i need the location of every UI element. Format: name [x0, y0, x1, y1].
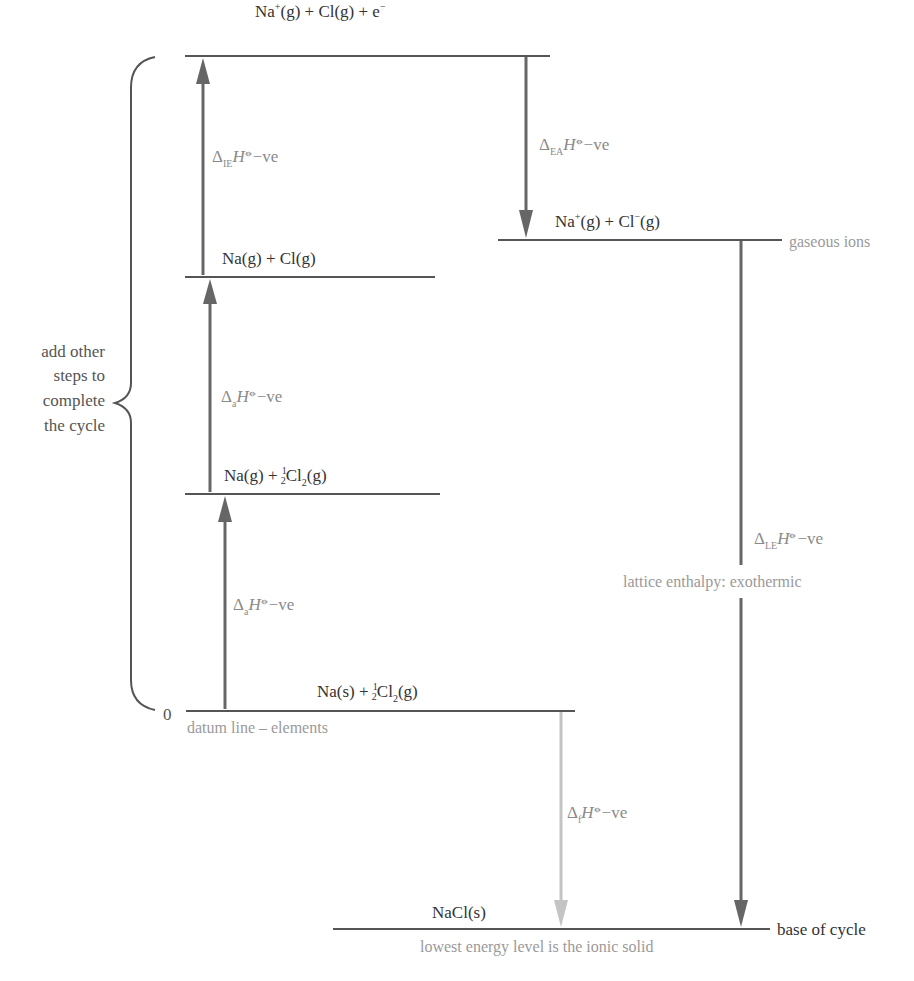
- label-top-level: Na+(g) + Cl(g) + e−: [255, 1, 386, 21]
- arrow-formation: [554, 712, 568, 927]
- label-atomisation-na-enthalpy: ΔaH⦵−ve: [233, 595, 294, 617]
- label-lattice-enthalpy: ΔLEH⦵−ve: [754, 529, 823, 551]
- zero-marker: 0: [163, 705, 172, 724]
- born-haber-diagram: Na+(g) + Cl(g) + e− Na(g) + Cl(g) Na(g) …: [0, 0, 914, 981]
- note-lowest-energy: lowest energy level is the ionic solid: [420, 938, 653, 956]
- note-datum-line: datum line – elements: [187, 719, 328, 736]
- label-gaseous-atoms: Na(g) + Cl(g): [222, 249, 316, 268]
- brace-note-line-3: complete: [43, 391, 105, 410]
- label-gaseous-ions: Na+(g) + Cl−(g): [555, 211, 660, 231]
- arrow-atomisation-na: [218, 496, 232, 709]
- note-lattice-exothermic: lattice enthalpy: exothermic: [623, 573, 802, 591]
- arrow-electron-affinity: [519, 57, 533, 238]
- note-base-of-cycle: base of cycle: [777, 920, 866, 939]
- label-atomisation-cl-enthalpy: ΔaH⦵−ve: [221, 387, 282, 409]
- arrow-ionisation: [196, 58, 210, 275]
- label-electron-affinity-enthalpy: ΔEAH⦵−ve: [539, 135, 609, 157]
- brace-note-line-2: steps to: [54, 366, 105, 385]
- label-ionic-solid: NaCl(s): [432, 903, 486, 922]
- label-formation-enthalpy: ΔfH⦵−ve: [567, 803, 627, 825]
- brace-note-line-1: add other: [41, 342, 105, 361]
- label-atomised-na: Na(g) + 12Cl2(g): [224, 465, 327, 488]
- label-ionisation-enthalpy: ΔIEH⦵−ve: [212, 147, 278, 169]
- cycle-brace: [115, 57, 155, 710]
- brace-note-line-4: the cycle: [44, 416, 105, 435]
- label-elements: Na(s) + 12Cl2(g): [317, 681, 418, 704]
- arrow-atomisation-cl: [203, 279, 217, 492]
- note-gaseous-ions: gaseous ions: [789, 233, 870, 251]
